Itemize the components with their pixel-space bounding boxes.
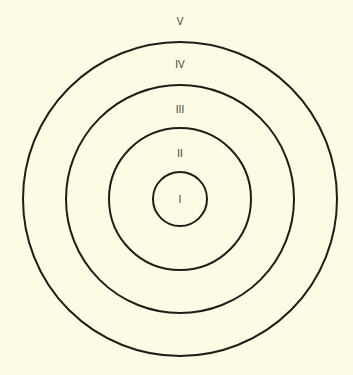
concentric-zone-diagram: V IV III II I xyxy=(0,0,353,375)
zone-label-iv: IV xyxy=(175,59,185,70)
zone-label-ii: II xyxy=(177,148,183,159)
zone-label-i: I xyxy=(179,194,182,205)
zone-label-iii: III xyxy=(176,104,184,115)
zone-label-v: V xyxy=(177,16,184,27)
